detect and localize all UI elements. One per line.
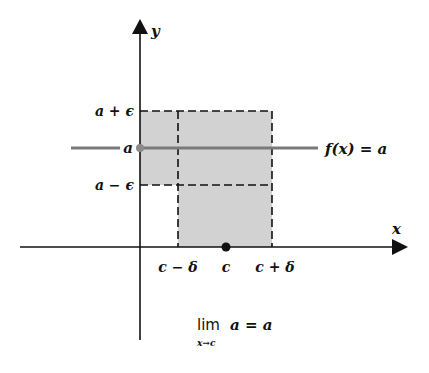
y-intercept-point: [136, 144, 144, 152]
delta-strip-shading: [178, 111, 272, 247]
c-plus-delta-label: c + δ: [255, 259, 294, 275]
c-minus-delta-label: c − δ: [158, 259, 197, 275]
x-axis-label: x: [391, 220, 402, 238]
lower-epsilon-label: a − ϵ: [95, 177, 135, 193]
lim-subscript: x→c: [196, 338, 216, 348]
y-axis-label: y: [150, 22, 161, 40]
lim-expression: a = a: [230, 316, 272, 334]
y-axis-arrow-icon: [132, 19, 148, 34]
upper-epsilon-label: a + ϵ: [95, 103, 135, 119]
c-label: c: [222, 259, 231, 275]
function-label: f(x) = a: [324, 140, 387, 158]
a-label: a: [123, 139, 133, 157]
lim-text: lim: [197, 316, 220, 334]
point-c: [222, 243, 231, 252]
limit-diagram: y x a + ϵ a a − ϵ c − δ c c + δ f(x) = a…: [0, 0, 429, 373]
x-axis-arrow-icon: [392, 239, 408, 255]
